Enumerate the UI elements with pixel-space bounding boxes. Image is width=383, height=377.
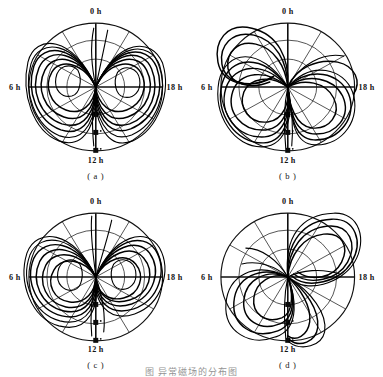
- hour-label-right: 18 h: [167, 83, 183, 92]
- hour-label-left: 6 h: [200, 83, 212, 92]
- polar-contour-figure: 0 h 6 h 18 h 12 h ( a ): [0, 0, 383, 377]
- panel-label: ( a ): [87, 171, 104, 181]
- hour-label-bottom: 12 h: [88, 156, 104, 165]
- hour-label-top: 0 h: [281, 197, 293, 206]
- hour-label-left: 6 h: [9, 273, 21, 282]
- panel-a: 0 h 6 h 18 h 12 h ( a ): [0, 0, 192, 190]
- contour-set: [24, 216, 165, 336]
- hour-label-right: 18 h: [167, 273, 183, 282]
- panel-b: 0 h 6 h 18 h 12 h ( b ): [192, 0, 383, 190]
- hour-label-bottom: 12 h: [279, 156, 295, 165]
- hour-label-bottom: 12 h: [88, 345, 104, 354]
- panel-a-plot: 0 h 6 h 18 h 12 h ( a ): [0, 0, 192, 190]
- hour-label-top: 0 h: [281, 7, 293, 16]
- panel-d: 0 h 6 h 18 h 12 h ( d ): [192, 190, 383, 377]
- hour-label-left: 6 h: [9, 83, 21, 92]
- figure-caption-partial: 图 异常磁场的分布图: [0, 365, 383, 377]
- hour-label-top: 0 h: [90, 7, 102, 16]
- hour-label-bottom: 12 h: [279, 345, 295, 354]
- panel-c-plot: 0 h 6 h 18 h 12 h ( c ): [0, 190, 192, 377]
- panel-label: ( b ): [279, 171, 296, 181]
- hour-label-right: 18 h: [358, 273, 374, 282]
- panel-d-plot: 0 h 6 h 18 h 12 h ( d ): [192, 190, 383, 377]
- hour-label-left: 6 h: [200, 273, 212, 282]
- hour-label-right: 18 h: [358, 83, 374, 92]
- panel-b-plot: 0 h 6 h 18 h 12 h ( b ): [192, 0, 383, 190]
- hour-label-top: 0 h: [90, 197, 102, 206]
- radial-tick-markers: [93, 302, 101, 343]
- panel-c: 0 h 6 h 18 h 12 h ( c ): [0, 190, 192, 377]
